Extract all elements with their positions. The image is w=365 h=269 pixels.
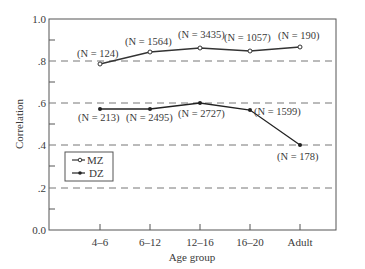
y-tick-label: 1.0	[32, 13, 46, 25]
x-tick-label: 16–20	[236, 236, 264, 248]
correlation-chart: 1.0 .8 .6 .4 .2 0.0 4–6 6–12 12–16 16–20…	[0, 0, 365, 269]
dz-annotation: (N = 1599)	[254, 106, 301, 118]
dz-annotation: (N = 2727)	[178, 108, 225, 120]
dz-annotation: (N = 178)	[277, 151, 319, 163]
legend-label-dz: DZ	[89, 167, 104, 179]
mz-annotation: (N = 1057)	[224, 32, 271, 44]
x-tick-label: 12–16	[186, 236, 214, 248]
dz-annotation: (N = 2495)	[126, 112, 173, 124]
y-tick-label: .4	[38, 139, 47, 151]
mz-legend-marker-icon	[78, 158, 82, 162]
mz-annotation: (N = 1564)	[125, 36, 172, 48]
x-ticks	[100, 224, 300, 230]
mz-annotation: (N = 190)	[278, 30, 320, 42]
y-axis-title: Correlation	[13, 98, 25, 149]
y-tick-label: .2	[38, 182, 46, 194]
y-tick-label: .8	[38, 55, 47, 67]
x-axis-title: Age group	[169, 251, 216, 263]
mz-series-markers	[98, 45, 302, 66]
x-tick-label: 4–6	[92, 236, 109, 248]
mz-annotation: (N = 124)	[77, 48, 119, 60]
legend-label-mz: MZ	[87, 154, 104, 166]
y-ticks	[49, 40, 55, 209]
y-tick-label: 0.0	[32, 224, 46, 236]
dz-annotation: (N = 213)	[78, 112, 120, 124]
dz-legend-marker-icon	[78, 171, 82, 175]
mz-annotation: (N = 3435)	[178, 29, 225, 41]
x-tick-label: Adult	[287, 236, 312, 248]
x-tick-label: 6–12	[139, 236, 161, 248]
legend: MZ DZ	[65, 152, 113, 181]
y-tick-label: .6	[38, 97, 47, 109]
